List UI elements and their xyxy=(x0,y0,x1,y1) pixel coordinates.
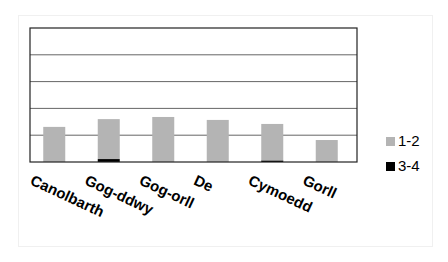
x-tick-label: De xyxy=(191,171,216,195)
bar-gog-orll-1-2 xyxy=(152,117,174,162)
gridlines xyxy=(30,55,357,135)
legend-label-3-4: 3-4 xyxy=(398,157,420,174)
x-axis-labels: CanolbarthGog-ddwyGog-orllDeCymoeddGorll xyxy=(28,171,339,220)
bar-cymoedd-1-2 xyxy=(261,124,283,160)
legend: 1-23-4 xyxy=(386,132,420,174)
bar-de-1-2 xyxy=(207,120,229,162)
legend-label-1-2: 1-2 xyxy=(398,132,420,149)
bar-canolbarth-1-2 xyxy=(43,127,65,162)
legend-swatch-1-2 xyxy=(386,137,395,146)
plot-area-border xyxy=(30,28,357,162)
bar-chart: CanolbarthGog-ddwyGog-orllDeCymoeddGorll… xyxy=(0,0,448,262)
bar-gog-ddwy-1-2 xyxy=(98,119,120,159)
legend-swatch-3-4 xyxy=(386,162,395,171)
bar-gorll-1-2 xyxy=(316,140,338,162)
bars xyxy=(43,117,338,162)
